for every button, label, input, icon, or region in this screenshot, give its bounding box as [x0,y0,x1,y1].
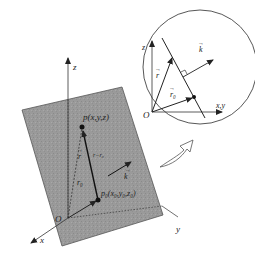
inset-point-p0 [192,95,196,99]
inset-origin-label: O [143,110,150,120]
inset-vector-k-label: k [199,45,203,54]
inset-xy-label: x,y [215,101,226,110]
z-axis-label: z [72,62,77,72]
y-axis-label: y [175,224,180,234]
svg-text:→: → [169,85,175,91]
svg-text:→: → [77,147,83,153]
svg-text:→: → [155,66,161,72]
diagram-canvas: z x y O p(x,y,z) p₀(x₀,y₀,z₀) r r₀ r−r₀ … [0,0,255,260]
point-p0 [96,198,101,203]
plane [22,87,163,246]
svg-text:→: → [198,40,204,46]
point-p [80,125,85,130]
vector-r0-label: r₀ [77,178,83,187]
vector-r-minus-r0-label: r−r₀ [93,152,104,158]
point-p-label: p(x,y,z) [82,112,109,122]
zoom-arrow-icon [160,140,193,167]
inset-vector-r0-label: r₀ [170,90,176,99]
vector-k-label: k [124,172,128,181]
point-p0-label: p₀(x₀,y₀,z₀) [100,189,136,198]
svg-text:→: → [125,167,131,173]
x-axis-label: x [39,235,44,245]
plane-equation-diagram: z x y O p(x,y,z) p₀(x₀,y₀,z₀) r r₀ r−r₀ … [0,0,255,260]
origin-label: O [55,214,62,224]
